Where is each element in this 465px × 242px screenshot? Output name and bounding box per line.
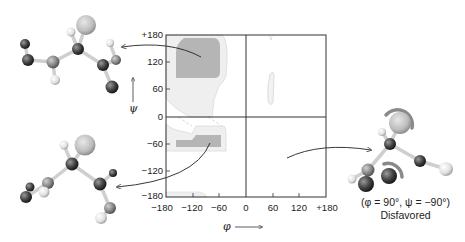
x-tick-neg60: −60 xyxy=(211,202,227,213)
phi-axis-label: φ xyxy=(223,220,231,233)
x-tick-0: 0 xyxy=(243,202,248,213)
arrow-to-right-molecule xyxy=(287,147,371,158)
y-tick-180: +180 xyxy=(142,29,163,40)
y-tick-neg120: −120 xyxy=(142,165,163,176)
left-handed-helix-region xyxy=(268,72,274,104)
x-tick-120: 120 xyxy=(291,202,307,213)
disfavored-caption: (φ = 90°, ψ = −90°) Disfavored xyxy=(348,196,463,222)
plot-area: +180 120 60 0 −60 −120 −180 −180 −120 −6… xyxy=(129,29,338,233)
psi-axis-label: ψ xyxy=(129,102,138,115)
top-left-molecule xyxy=(20,15,121,94)
x-tick-60: 60 xyxy=(268,202,279,213)
y-tick-60: 60 xyxy=(152,83,163,94)
caption-angles: (φ = 90°, ψ = −90°) xyxy=(348,196,463,209)
x-tick-neg120: −120 xyxy=(181,202,202,213)
right-molecule xyxy=(348,110,454,192)
y-tick-neg180: −180 xyxy=(142,190,163,201)
y-tick-neg60: −60 xyxy=(147,138,163,149)
x-tick-180: +180 xyxy=(316,202,337,213)
beta-core-region xyxy=(176,38,220,78)
y-tick-120: 120 xyxy=(147,56,163,67)
bottom-left-molecule xyxy=(20,135,117,225)
x-tick-neg180: −180 xyxy=(151,202,172,213)
caption-status: Disfavored xyxy=(348,209,463,222)
y-tick-0: 0 xyxy=(158,111,163,122)
bottom-allowed-strip xyxy=(166,192,207,197)
